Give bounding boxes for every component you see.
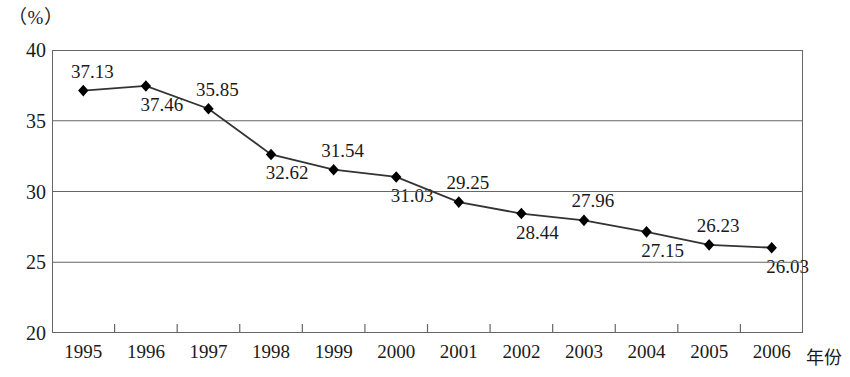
data-line-series: [83, 86, 771, 248]
data-point-marker: [516, 208, 526, 220]
data-point-marker: [454, 196, 464, 208]
data-point-marker: [328, 164, 338, 176]
data-point-marker: [704, 239, 714, 251]
data-point-marker: [391, 171, 401, 183]
chart-container: （%） 4035302520 1995199619971998199920002…: [0, 0, 850, 377]
data-point-marker: [78, 85, 88, 97]
data-marker-group: [78, 80, 777, 253]
data-point-marker: [641, 226, 651, 238]
data-point-marker: [203, 103, 213, 115]
data-point-marker: [767, 242, 777, 254]
data-point-marker: [579, 215, 589, 227]
data-point-marker: [141, 80, 151, 92]
data-point-marker: [266, 149, 276, 161]
chart-graphics: [0, 0, 850, 377]
x-tickmark-group: [115, 324, 741, 333]
